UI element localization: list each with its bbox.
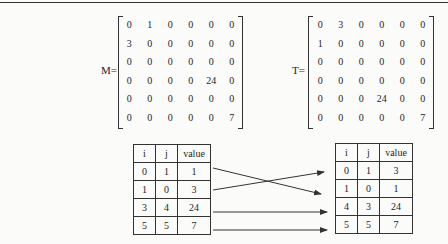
transpose-arrows xyxy=(0,0,448,244)
arrow-row2-to-row1 xyxy=(213,172,324,190)
